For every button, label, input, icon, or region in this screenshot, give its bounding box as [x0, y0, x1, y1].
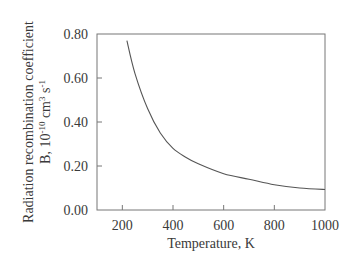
- x-tick-label: 1000: [311, 218, 339, 233]
- x-tick-label: 800: [264, 218, 285, 233]
- y-tick-label: 0.00: [64, 203, 89, 218]
- x-tick-label: 200: [112, 218, 133, 233]
- y-axis-ticks: 0.000.200.400.600.80: [64, 27, 103, 218]
- y-tick-label: 0.60: [64, 71, 89, 86]
- data-curve: [127, 41, 325, 190]
- x-tick-label: 400: [163, 218, 184, 233]
- x-axis-title: Temperature, K: [167, 236, 255, 251]
- y-axis-title: Radiation recombination coefficient B, 1…: [21, 21, 53, 223]
- x-axis-ticks: 2004006008001000: [112, 205, 339, 233]
- y-tick-label: 0.40: [64, 115, 89, 130]
- y-axis-title-line1: Radiation recombination coefficient: [21, 21, 36, 223]
- y-tick-label: 0.80: [64, 27, 89, 42]
- y-tick-label: 0.20: [64, 159, 89, 174]
- x-tick-label: 600: [213, 218, 234, 233]
- y-axis-title-line2: B, 10-10 cm3 s-1: [37, 80, 53, 164]
- chart: 0.000.200.400.600.80 2004006008001000 Te…: [0, 0, 352, 262]
